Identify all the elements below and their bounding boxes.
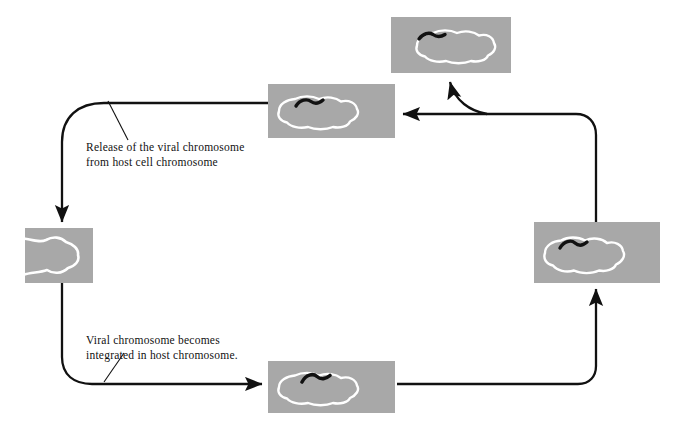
- caption-viral-chromosome-integrated: Viral chromosome becomes integrated in h…: [86, 333, 238, 362]
- cell-panel-background: [534, 222, 660, 283]
- cell-panel-background: [268, 361, 395, 413]
- caption-release-of-viral-chromosome: Release of the viral chromosome from hos…: [86, 140, 245, 169]
- viral-cycle-diagram: Release of the viral chromosome from hos…: [0, 0, 691, 428]
- cell-panel-left: [22, 228, 93, 283]
- cell-panel-top-right: [391, 17, 511, 73]
- leader-line-release: [108, 101, 128, 140]
- arrow-branch-to-top-right-cell: [450, 82, 487, 114]
- cell-panel-background: [25, 228, 93, 283]
- arrow-bottom-to-right: [397, 289, 596, 384]
- cell-panel-background: [268, 84, 395, 138]
- cell-panel-bottom-middle: [268, 361, 395, 413]
- diagram-canvas: [0, 0, 691, 428]
- cell-panel-right: [534, 222, 660, 283]
- cell-panel-top-middle: [268, 84, 395, 138]
- arrow-right-to-top-middle: [403, 114, 596, 222]
- cell-panel-background: [391, 17, 511, 73]
